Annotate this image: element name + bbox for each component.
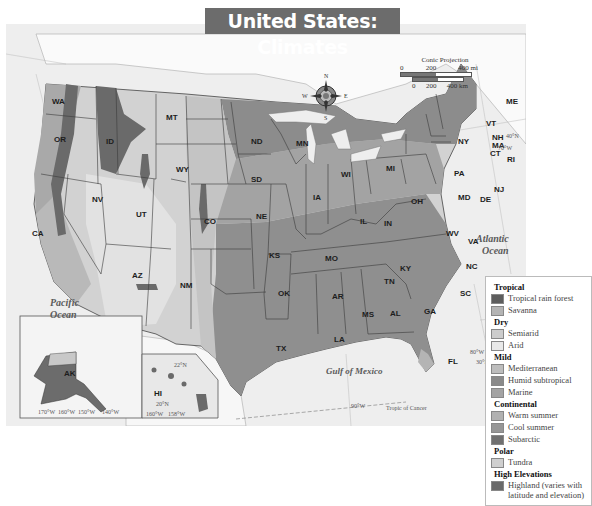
legend-item: Subarctic — [491, 434, 591, 445]
svg-text:AZ: AZ — [132, 271, 143, 280]
svg-text:KY: KY — [400, 264, 412, 273]
legend-swatch — [491, 388, 504, 398]
svg-text:LA: LA — [334, 335, 345, 344]
scale-mi-200: 200 — [426, 64, 437, 72]
pacific-ocean-label-1: Pacific — [50, 297, 79, 308]
svg-text:PA: PA — [454, 169, 465, 178]
legend-item: Humid subtropical — [491, 375, 591, 386]
scale-miles-labels: 0 200 400 mi — [400, 64, 478, 72]
legend-label: Savanna — [508, 305, 537, 315]
legend-heading: Tropical — [494, 282, 591, 292]
svg-text:NY: NY — [458, 137, 470, 146]
zone-highland-arizona — [136, 284, 158, 290]
svg-text:NH: NH — [492, 133, 504, 142]
legend-label: Semiarid — [508, 328, 539, 338]
legend-label: Mediterranean — [508, 363, 558, 373]
legend-heading: Continental — [494, 399, 591, 409]
svg-text:SC: SC — [460, 289, 471, 298]
svg-text:N: N — [324, 73, 329, 79]
legend-label: Tropical rain forest — [508, 293, 573, 303]
legend-swatch — [491, 435, 504, 445]
ak-lon-140: 140°W — [102, 409, 119, 415]
svg-text:NC: NC — [466, 262, 478, 271]
scale-km-200: 200 — [426, 82, 437, 90]
map-title: United States: Climates — [205, 8, 400, 34]
legend-item: Highland (varies with latitude and eleva… — [491, 480, 591, 500]
svg-text:NE: NE — [256, 212, 268, 221]
svg-text:NV: NV — [92, 195, 104, 204]
svg-text:OR: OR — [54, 135, 66, 144]
scale-km-400: 400 km — [447, 82, 468, 90]
svg-text:AL: AL — [390, 309, 401, 318]
atlantic-ocean-label-2: Ocean — [482, 245, 509, 256]
legend-swatch — [491, 411, 504, 421]
scale-km-labels: 0 200 400 km — [412, 82, 468, 90]
svg-text:WY: WY — [176, 165, 190, 174]
svg-text:OH: OH — [411, 197, 423, 206]
legend-label: Subarctic — [508, 434, 540, 444]
scale-bar: Conic Projection 0 200 400 mi 0 200 400 … — [400, 56, 490, 90]
hi-lat-22: 22°N — [174, 362, 187, 368]
svg-text:MO: MO — [325, 254, 338, 263]
hi-lat-20: 20°N — [156, 401, 169, 407]
projection-label: Conic Projection — [400, 56, 490, 64]
ak-lon-160: 160°W — [58, 409, 75, 415]
svg-text:KS: KS — [269, 251, 281, 260]
legend-swatch — [491, 481, 504, 491]
legend-swatch — [491, 458, 504, 468]
legend-label: Cool summer — [508, 422, 554, 432]
hi-lon-160: 160°W — [146, 411, 163, 417]
legend-item: Arid — [491, 340, 591, 351]
state-label-hi: HI — [154, 389, 162, 398]
legend-swatch — [491, 329, 504, 339]
svg-text:DE: DE — [480, 195, 492, 204]
svg-text:CA: CA — [32, 229, 44, 238]
legend-item: Savanna — [491, 305, 591, 316]
svg-text:TX: TX — [276, 344, 287, 353]
svg-text:W: W — [302, 93, 308, 99]
lat-40-label: 40°N — [506, 133, 519, 139]
svg-text:NJ: NJ — [494, 185, 504, 194]
hi-lon-158: 158°W — [168, 411, 185, 417]
legend-swatch — [491, 341, 504, 351]
scale-km-0: 0 — [412, 82, 416, 90]
legend-swatch — [491, 306, 504, 316]
scale-mi-0: 0 — [400, 64, 404, 72]
svg-text:ND: ND — [251, 137, 263, 146]
ak-lon-150: 150°W — [78, 409, 95, 415]
svg-text:ID: ID — [106, 137, 114, 146]
svg-text:UT: UT — [136, 210, 147, 219]
svg-text:ME: ME — [506, 97, 519, 106]
svg-text:RI: RI — [507, 155, 515, 164]
legend-label: Arid — [508, 340, 524, 350]
legend-item: Cool summer — [491, 422, 591, 433]
legend-label: Humid subtropical — [508, 375, 572, 385]
svg-text:IN: IN — [384, 219, 392, 228]
legend-swatch — [491, 423, 504, 433]
legend-label: Highland (varies with latitude and eleva… — [508, 480, 591, 500]
svg-text:MT: MT — [166, 113, 178, 122]
svg-text:MI: MI — [386, 164, 395, 173]
svg-text:NM: NM — [180, 281, 193, 290]
svg-text:S: S — [324, 115, 327, 121]
atlantic-ocean-label-1: Atlantic — [475, 233, 509, 244]
svg-text:AR: AR — [332, 292, 344, 301]
svg-text:TN: TN — [384, 277, 395, 286]
legend-label: Warm summer — [508, 410, 558, 420]
legend-label: Tundra — [508, 457, 532, 467]
svg-text:MN: MN — [296, 139, 309, 148]
legend-item: Semiarid — [491, 328, 591, 339]
legend-heading: Polar — [494, 446, 591, 456]
svg-text:E: E — [344, 93, 348, 99]
svg-text:VT: VT — [486, 119, 496, 128]
climate-legend: TropicalTropical rain forestSavannaDrySe… — [485, 276, 592, 506]
legend-label: Marine — [508, 387, 533, 397]
svg-text:IL: IL — [360, 217, 367, 226]
pacific-ocean-label-2: Ocean — [50, 309, 77, 320]
ak-lon-170: 170°W — [38, 409, 55, 415]
svg-text:GA: GA — [424, 307, 436, 316]
svg-text:CO: CO — [204, 217, 216, 226]
legend-swatch — [491, 376, 504, 386]
legend-heading: High Elevations — [494, 469, 591, 479]
svg-text:WV: WV — [446, 229, 460, 238]
